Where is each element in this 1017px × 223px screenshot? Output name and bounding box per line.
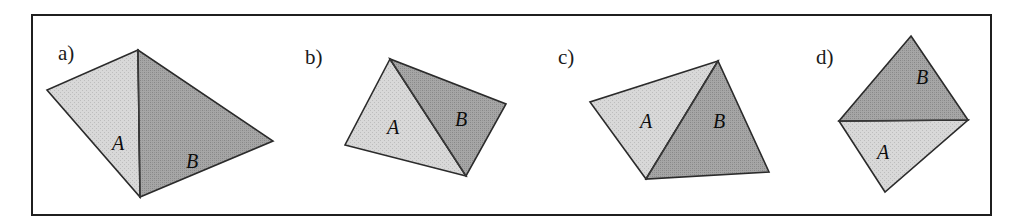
panel-a-region-b-label: B [186, 150, 198, 172]
panel-d: d) A B [816, 36, 968, 192]
panel-b-region-a-label: A [385, 116, 400, 138]
panel-b-caption: b) [305, 45, 323, 69]
panel-d-face-dark [839, 36, 968, 121]
panel-d-region-a-label: A [875, 141, 890, 163]
panel-c: c) A B [558, 45, 769, 179]
figure-container: a) A B b) A B c) A B d) A [0, 0, 1017, 223]
panel-d-face-light [839, 120, 968, 192]
panel-b-region-b-label: B [455, 108, 467, 130]
panel-d-caption: d) [816, 45, 834, 69]
panel-a-face-dark [138, 50, 273, 197]
figure-canvas: a) A B b) A B c) A B d) A [0, 0, 1017, 223]
panel-a-region-a-label: A [110, 132, 125, 154]
panel-a-caption: a) [58, 41, 74, 65]
panel-d-region-b-label: B [916, 66, 928, 88]
panel-c-caption: c) [558, 45, 574, 69]
panel-c-region-a-label: A [638, 110, 653, 132]
panel-a: a) A B [47, 41, 273, 197]
panel-b: b) A B [305, 45, 506, 176]
panel-c-region-b-label: B [713, 110, 725, 132]
panel-a-face-light [47, 50, 140, 197]
